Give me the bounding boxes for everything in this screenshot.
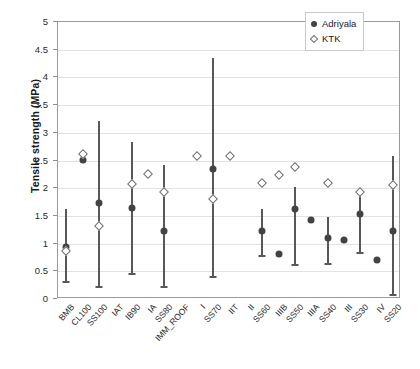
open-diamond-icon [310,34,318,42]
error-bar-cap [324,263,331,265]
data-point-adriyala[interactable] [324,235,331,242]
data-point-adriyala[interactable] [308,217,315,224]
x-axis-tick-label: I [198,302,207,310]
x-axis-tick-label: SS60 [251,302,273,324]
x-axis-tick-label: IB90 [123,302,142,322]
error-bar-cap [291,264,298,266]
error-bar-cap [210,276,217,278]
y-axis-tick-label: 3.5 [0,99,48,110]
data-point-ktk[interactable] [143,169,153,179]
data-point-adriyala[interactable] [161,227,168,234]
data-point-adriyala[interactable] [128,205,135,212]
y-axis-tick-label: 2.5 [0,154,48,165]
y-axis-tick-label: 1.5 [0,209,48,220]
y-axis-tick-label: 3 [0,126,48,137]
y-axis-tick-label: 5 [0,16,48,27]
data-point-ktk[interactable] [208,194,218,204]
tensile-strength-chart: Tensile strength (MPa) 00.511.522.533.54… [0,0,420,369]
legend-label-ktk: KTK [322,33,340,44]
y-axis-tick-label: 4.5 [0,43,48,54]
legend-item-adriyala[interactable]: Adriyala [311,16,356,31]
gridline [58,188,399,189]
data-point-ktk[interactable] [257,178,267,188]
error-bar [392,156,394,295]
gridline [58,133,399,134]
data-point-adriyala[interactable] [357,210,364,217]
y-axis-tick-mark [53,298,57,299]
error-bar-cap [357,252,364,254]
data-point-ktk[interactable] [274,171,284,181]
x-axis-tick-label: IIT [226,302,240,316]
data-point-ktk[interactable] [323,178,333,188]
y-axis-tick-label: 0.5 [0,265,48,276]
error-bar-cap [63,281,70,283]
gridline [58,105,399,106]
x-axis-tick-label: SS20 [382,302,404,324]
error-bar-cap [95,286,102,288]
filled-circle-icon [311,21,317,27]
error-bar [359,193,361,253]
data-point-adriyala[interactable] [275,250,282,257]
x-axis-tick-label: SS30 [349,302,371,324]
y-axis-tick-label: 0 [0,293,48,304]
legend: Adriyala KTK [305,12,364,51]
gridline [58,216,399,217]
gridline [58,244,399,245]
x-axis-tick-label: II [246,302,257,312]
data-point-adriyala[interactable] [95,200,102,207]
data-point-adriyala[interactable] [373,257,380,264]
x-axis-tick-label: SS50 [284,302,306,324]
x-axis-tick-label: SS40 [316,302,338,324]
legend-label-adriyala: Adriyala [322,18,356,29]
data-point-adriyala[interactable] [340,236,347,243]
data-point-ktk[interactable] [290,162,300,172]
plot-area [57,21,400,298]
data-point-adriyala[interactable] [389,228,396,235]
y-axis-tick-label: 2 [0,182,48,193]
error-bar-cap [259,255,266,257]
y-axis-tick-label: 1 [0,237,48,248]
data-point-adriyala[interactable] [210,166,217,173]
data-point-ktk[interactable] [94,221,104,231]
data-point-adriyala[interactable] [291,206,298,213]
error-bar-cap [128,273,135,275]
x-axis-tick-label: SS70 [202,302,224,324]
gridline [58,77,399,78]
y-axis-tick-label: 4 [0,71,48,82]
gridline [58,161,399,162]
legend-item-ktk[interactable]: KTK [311,31,356,46]
error-bar [294,187,296,265]
data-point-adriyala[interactable] [259,228,266,235]
error-bar-cap [389,294,396,296]
error-bar-cap [161,286,168,288]
gridline [58,271,399,272]
error-bar [163,165,165,287]
